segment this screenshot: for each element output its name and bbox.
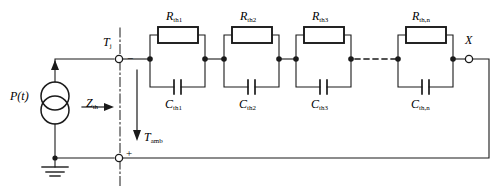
source-current-arrow (51, 60, 59, 70)
stagen-resistor-path (398, 35, 406, 59)
stage2-capacitor-base: C (239, 97, 247, 111)
stage1-capacitor-path-right (181, 59, 205, 87)
stagen-resistor-body (406, 27, 446, 43)
ambient-temp-sub: amb (151, 137, 163, 145)
junction-temp-sub: j (110, 42, 112, 50)
tamb-arrow-head (133, 130, 141, 141)
stage2-capacitor-sub: th2 (247, 104, 256, 112)
stagen-node-left (395, 56, 401, 62)
junction-temp-label: Tj (103, 36, 112, 49)
circuit-svg (0, 0, 502, 193)
stagen-capacitor-path-left (398, 59, 422, 87)
stage2-node-right (276, 56, 282, 62)
stage3-resistor-sub: th3 (319, 16, 328, 24)
stage3-resistor-label: Rth3 (312, 10, 328, 23)
stage3-capacitor-label: Cth3 (311, 98, 328, 111)
ambient-terminal (115, 154, 122, 161)
stage1-resistor-path-right (198, 35, 205, 59)
impedance-label: Zth (86, 97, 98, 110)
stagen-capacitor-label: Cth,n (411, 98, 430, 111)
stagen-resistor-label: Rth,n (412, 10, 430, 23)
stagen-capacitor-sub: th,n (419, 104, 430, 112)
output-terminal-x (465, 55, 472, 62)
ambient-polarity-sign: + (126, 148, 132, 159)
stage3-capacitor-sub: th3 (319, 104, 328, 112)
stage1-node-left (147, 56, 153, 62)
stage1-resistor-label: Rth1 (166, 10, 182, 23)
stage2-capacitor-path-right (255, 59, 279, 87)
impedance-label-sub: th (93, 103, 98, 111)
stage3-node-right (348, 56, 354, 62)
junction-terminal-tj (115, 55, 122, 62)
stage1-resistor-sub: th1 (173, 16, 182, 24)
stage1-capacitor-path-left (150, 59, 174, 87)
ambient-temp-label: Tamb (144, 131, 163, 144)
stage2-resistor-body (232, 27, 272, 43)
output-node-label: X (465, 34, 472, 46)
stage3-resistor-body (304, 27, 344, 43)
stage1-resistor-path (150, 35, 158, 59)
stage3-resistor-path-right (344, 35, 351, 59)
stage3-node-left (293, 56, 299, 62)
ambient-temp-base: T (144, 130, 151, 144)
impedance-label-base: Z (86, 96, 93, 110)
stagen-resistor-sub: th,n (419, 16, 430, 24)
stage2-resistor-path (224, 35, 232, 59)
stage1-capacitor-label: Cth1 (165, 98, 182, 111)
stagen-capacitor-base: C (411, 97, 419, 111)
stagen-resistor-path-right (446, 35, 453, 59)
stage1-resistor-body (158, 27, 198, 43)
junction-polarity-sign: − (127, 53, 133, 64)
top-wire-source-to-node (55, 59, 114, 62)
stagen-node-right (450, 56, 456, 62)
stage2-resistor-path-right (272, 35, 279, 59)
stage2-capacitor-path-left (224, 59, 248, 87)
junction-temp-base: T (103, 35, 110, 49)
stage1-capacitor-base: C (165, 97, 173, 111)
stage1-capacitor-sub: th1 (173, 104, 182, 112)
stage2-capacitor-label: Cth2 (239, 98, 256, 111)
stage2-resistor-label: Rth2 (240, 10, 256, 23)
stage3-resistor-path (296, 35, 304, 59)
circuit-diagram: P(t) Zth Tj − + Tamb X Rth1 Cth1 Rth2 Ct… (0, 0, 502, 193)
source-label: P(t) (10, 90, 29, 102)
stage2-node-left (221, 56, 227, 62)
stage3-capacitor-base: C (311, 97, 319, 111)
stage3-capacitor-path-right (327, 59, 351, 87)
stagen-capacitor-path-right (429, 59, 453, 87)
stage1-node-right (202, 56, 208, 62)
stage2-resistor-sub: th2 (247, 16, 256, 24)
stage3-capacitor-path-left (296, 59, 320, 87)
zth-arrow-head (104, 103, 114, 111)
